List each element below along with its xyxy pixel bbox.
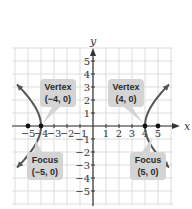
- x-tick-label: 3: [129, 128, 135, 139]
- y-tick-label: −2: [75, 147, 90, 158]
- point-marker: [156, 124, 161, 129]
- callout-pointer: [142, 138, 152, 152]
- callout-focus-right: Focus(5, 0): [130, 138, 166, 180]
- y-tick-label: 5: [84, 56, 90, 67]
- callout-coords: (−5, 0): [32, 167, 58, 177]
- x-axis-arrow-icon: [172, 123, 180, 129]
- y-tick-label: −3: [75, 160, 90, 171]
- x-axis-label: x: [184, 120, 191, 133]
- point-marker: [39, 124, 44, 129]
- callout-title: Vertex: [112, 82, 139, 92]
- y-tick-label: 4: [84, 69, 90, 80]
- callout-coords: (−4, 0): [45, 94, 71, 104]
- y-tick-label: −1: [75, 134, 90, 145]
- x-tick-label: 1: [103, 128, 109, 139]
- y-tick-label: −5: [75, 186, 90, 197]
- callout-title: Vertex: [44, 82, 71, 92]
- callout-title: Focus: [32, 155, 59, 165]
- callout-title: Focus: [135, 155, 162, 165]
- x-tick-label: 2: [116, 128, 122, 139]
- y-axis-label: y: [89, 35, 97, 48]
- callout-coords: (5, 0): [137, 167, 158, 177]
- y-axis-arrow-icon: [90, 48, 96, 56]
- hyperbola-chart: xy −5−4−3−2−11234554321−1−2−3−4−5 Vertex…: [0, 0, 192, 209]
- y-tick-label: 1: [84, 108, 90, 119]
- y-tick-label: 2: [84, 95, 90, 106]
- point-marker: [143, 124, 148, 129]
- callout-pointer: [124, 107, 143, 123]
- point-marker: [26, 124, 31, 129]
- y-tick-label: −4: [75, 173, 90, 184]
- callout-vertex-left: Vertex(−4, 0): [40, 79, 76, 123]
- callout-coords: (4, 0): [115, 94, 136, 104]
- callout-vertex-right: Vertex(4, 0): [108, 79, 144, 123]
- callout-focus-left: Focus(−5, 0): [27, 140, 63, 180]
- y-tick-label: 3: [84, 82, 90, 93]
- callout-pointer: [43, 107, 60, 123]
- x-tick-label: 5: [155, 128, 161, 139]
